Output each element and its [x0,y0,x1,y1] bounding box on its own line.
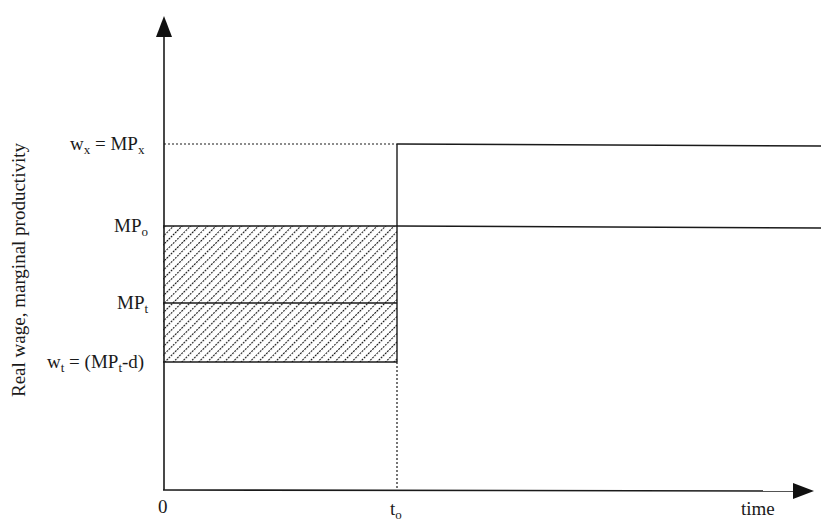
t0-label: to [390,499,402,518]
y-axis-label: Real wage, marginal productivity [8,143,30,397]
hatched-area [163,226,397,362]
label-wt: wt = (MPt-d) [47,352,144,371]
wx-line [397,144,821,146]
x-axis-label: time [741,499,775,518]
diagram-canvas [0,0,826,529]
label-wx: wx = MPx [70,134,144,153]
y-axis-arrow-icon [156,16,172,37]
x-axis-arrow-icon [793,483,814,499]
x-axis [163,490,796,491]
label-mpo: MPo [114,216,148,235]
label-mpt: MPt [117,293,148,312]
origin-label: 0 [158,497,168,516]
mpo-line [397,226,821,228]
